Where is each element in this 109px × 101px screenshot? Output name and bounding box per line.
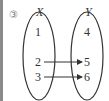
problem-number: ③: [9, 9, 18, 20]
x-element-1: 1: [35, 25, 41, 39]
set-x-label: X: [35, 5, 44, 19]
y-element-4: 4: [84, 25, 90, 39]
mapping-diagram: ③ X Y 1 2 3 4 5 6: [0, 0, 109, 101]
x-element-2: 2: [35, 55, 41, 69]
y-element-6: 6: [84, 70, 90, 84]
set-y-label: Y: [85, 5, 93, 19]
x-element-3: 3: [35, 70, 41, 84]
y-element-5: 5: [84, 55, 90, 69]
